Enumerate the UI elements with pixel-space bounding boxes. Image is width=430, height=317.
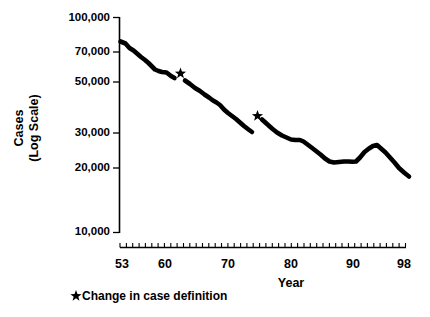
y-tick-label-20000: 20,000 <box>75 161 110 173</box>
x-axis-title: Year <box>278 276 305 290</box>
data-line-segment-1 <box>121 42 175 79</box>
y-axis-ticks <box>113 18 120 233</box>
x-tick-label-53: 53 <box>115 257 129 271</box>
y-axis-title-line2: (Log Scale) <box>27 94 41 161</box>
cases-log-scale-line-chart: 100,000 70,000 50,000 30,000 20,000 10,0… <box>0 0 430 317</box>
y-tick-label-50000: 50,000 <box>75 75 110 87</box>
chart-container: 100,000 70,000 50,000 30,000 20,000 10,0… <box>0 0 430 317</box>
y-tick-label-100000: 100,000 <box>68 11 110 23</box>
x-tick-label-70: 70 <box>221 257 235 271</box>
chart-legend: Change in case definition <box>70 289 227 303</box>
y-tick-label-10000: 10,000 <box>75 225 110 237</box>
legend-label-change-in-case-definition: Change in case definition <box>82 289 227 303</box>
x-tick-label-80: 80 <box>284 257 298 271</box>
change-marker-1-star-icon <box>175 68 186 79</box>
x-tick-label-90: 90 <box>346 257 360 271</box>
data-line-segment-3 <box>262 120 409 177</box>
y-axis-title: Cases (Log Scale) <box>12 94 41 161</box>
data-line-segment-2 <box>185 81 252 133</box>
y-tick-label-70000: 70,000 <box>75 45 110 57</box>
y-tick-label-30000: 30,000 <box>75 126 110 138</box>
y-axis-title-line1: Cases <box>12 110 26 147</box>
x-tick-label-98: 98 <box>397 257 411 271</box>
legend-star-icon <box>70 290 81 301</box>
x-tick-label-60: 60 <box>158 257 172 271</box>
